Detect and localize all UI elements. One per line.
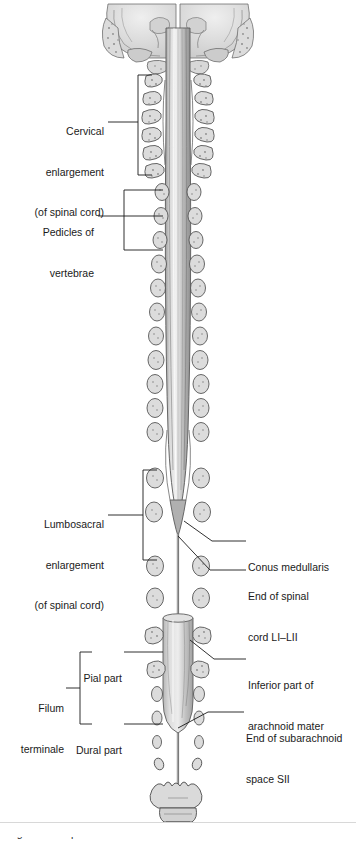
- figure-caption-bar: Figure 2.51 Spinal cord.: [0, 822, 356, 847]
- label-pedicles-of-vertebrae: Pedicles of vertebrae: [0, 199, 94, 307]
- pedicles-left-column: [142, 74, 169, 771]
- figure-caption-text: Figure 2.51 Spinal cord.: [8, 827, 119, 839]
- label-lumbosacral-line-1: Lumbosacral: [0, 518, 104, 532]
- label-cervical-line-2: enlargement: [0, 166, 104, 180]
- label-filum-terminale: Filum terminale: [0, 675, 64, 783]
- label-filum-line-2: terminale: [0, 743, 64, 757]
- label-lumbosacral-line-2: enlargement: [0, 559, 104, 573]
- label-end-cord-line-1: End of spinal: [248, 590, 309, 604]
- label-lumbosacral-enlargement: Lumbosacral enlargement (of spinal cord): [0, 491, 104, 640]
- pedicles-right-column: [187, 74, 214, 771]
- dural-sac: [163, 614, 193, 733]
- label-subarachnoid-line-2: space SII: [246, 773, 342, 787]
- label-pedicles-line-1: Pedicles of: [0, 226, 94, 240]
- spinal-cord-figure: Cervical enlargement (of spinal cord) Pe…: [0, 0, 356, 847]
- label-lumbosacral-line-3: (of spinal cord): [0, 599, 104, 613]
- label-arachnoid-line-1: Inferior part of: [248, 679, 324, 693]
- label-pedicles-line-2: vertebrae: [0, 267, 94, 281]
- label-subarachnoid-line-1: End of subarachnoid: [246, 732, 342, 746]
- label-end-cord-line-2: cord LI–LII: [248, 631, 309, 645]
- label-filum-line-1: Filum: [0, 702, 64, 716]
- label-cervical-line-1: Cervical: [0, 125, 104, 139]
- leader-conus: [184, 521, 246, 541]
- label-end-of-subarachnoid-space: End of subarachnoid space SII: [246, 705, 342, 813]
- spinal-cord-column: [163, 28, 193, 536]
